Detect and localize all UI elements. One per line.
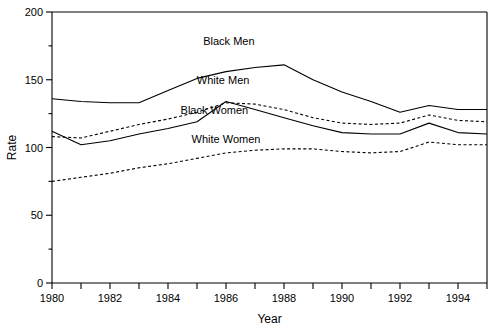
chart-figure: 0501001502001980198219841986198819901992… [0, 0, 503, 333]
series-line-white-women [52, 142, 487, 181]
y-axis-title: Rate [5, 135, 19, 161]
x-tick-label: 1984 [156, 292, 180, 304]
x-axis-title: Year [257, 312, 281, 326]
y-tick-label: 150 [25, 74, 43, 86]
x-tick-label: 1986 [214, 292, 238, 304]
series-label-white-men: White Men [197, 74, 250, 86]
x-tick-label: 1992 [388, 292, 412, 304]
series-line-black-women [52, 101, 487, 144]
series-line-white-men [52, 103, 487, 138]
y-tick-label: 100 [25, 142, 43, 154]
line-chart: 0501001502001980198219841986198819901992… [0, 0, 503, 333]
x-tick-label: 1988 [272, 292, 296, 304]
y-tick-label: 0 [37, 277, 43, 289]
series-label-black-women: Black Women [181, 104, 249, 116]
series-line-black-men [52, 65, 487, 112]
x-tick-label: 1990 [330, 292, 354, 304]
x-tick-label: 1994 [446, 292, 470, 304]
series-label-white-women: White Women [192, 133, 261, 145]
y-tick-label: 50 [31, 209, 43, 221]
x-tick-label: 1980 [40, 292, 64, 304]
x-tick-label: 1982 [98, 292, 122, 304]
y-tick-label: 200 [25, 6, 43, 18]
series-label-black-men: Black Men [203, 35, 254, 47]
